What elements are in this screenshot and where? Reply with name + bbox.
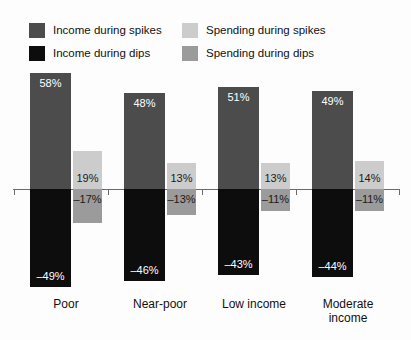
bar-value-label: –11%: [355, 194, 384, 205]
bar-spending-during-spikes-2: 13%: [261, 163, 290, 189]
bar-spending-during-spikes-1: 13%: [167, 163, 196, 189]
axis-tick-0: [14, 190, 15, 195]
bar-value-label: –13%: [167, 194, 196, 205]
category-label-line1: Moderate: [288, 297, 408, 311]
category-label-3: Moderateincome: [288, 297, 408, 325]
bar-income-during-spikes-0: 58%: [30, 73, 71, 189]
bar-spending-during-dips-0: –17%: [73, 189, 102, 223]
bar-value-label: 49%: [312, 96, 353, 107]
category-label-line2: income: [288, 311, 408, 325]
bar-value-label: 48%: [124, 98, 165, 109]
bar-value-label: 58%: [30, 78, 71, 89]
bar-value-label: 13%: [167, 173, 196, 184]
chart-root: Income during spikes Income during dips …: [0, 0, 411, 340]
bar-value-label: –11%: [261, 194, 290, 205]
bar-spending-during-spikes-3: 14%: [355, 161, 384, 189]
bar-value-label: –46%: [124, 265, 165, 276]
bar-value-label: 19%: [73, 173, 102, 184]
bar-income-during-spikes-2: 51%: [218, 87, 259, 189]
bar-spending-during-dips-1: –13%: [167, 189, 196, 215]
bar-income-during-dips-3: –44%: [312, 189, 353, 277]
bar-income-during-spikes-3: 49%: [312, 91, 353, 189]
bar-spending-during-spikes-0: 19%: [73, 151, 102, 189]
bar-income-during-dips-2: –43%: [218, 189, 259, 275]
bar-income-during-dips-1: –46%: [124, 189, 165, 281]
axis-tick-1: [108, 190, 109, 195]
bar-value-label: –44%: [312, 261, 353, 272]
bar-spending-during-dips-3: –11%: [355, 189, 384, 211]
axis-tick-3: [296, 190, 297, 195]
bar-spending-during-dips-2: –11%: [261, 189, 290, 211]
axis-tick-2: [202, 190, 203, 195]
bar-income-during-spikes-1: 48%: [124, 93, 165, 189]
bar-value-label: –17%: [73, 194, 102, 205]
bar-value-label: –49%: [30, 271, 71, 282]
bar-income-during-dips-0: –49%: [30, 189, 71, 287]
bar-value-label: 51%: [218, 92, 259, 103]
axis-tick-end: [399, 190, 400, 195]
bar-value-label: –43%: [218, 259, 259, 270]
bar-value-label: 14%: [355, 173, 384, 184]
plot-area: 19%–17%58%–49%Poor13%–13%48%–46%Near-poo…: [0, 0, 411, 340]
bar-value-label: 13%: [261, 173, 290, 184]
